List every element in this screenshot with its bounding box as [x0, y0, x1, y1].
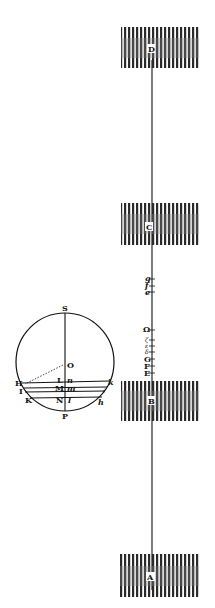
- label-I: I: [19, 386, 23, 396]
- label-M: M: [55, 383, 64, 393]
- label-k: k: [108, 377, 114, 387]
- label-e: e: [145, 287, 150, 297]
- block-A: A: [120, 554, 199, 597]
- label-h: h: [98, 397, 104, 407]
- label-B: B: [148, 396, 155, 406]
- chord-Mm: [25, 391, 105, 392]
- chord-Ln: [24, 387, 107, 388]
- label-m: m: [67, 383, 75, 393]
- block-D: D: [121, 27, 199, 68]
- label-E: E: [144, 368, 150, 378]
- label-P: P: [62, 411, 68, 421]
- circle-figure: S O P H I K L n M m N l k i h: [15, 303, 114, 421]
- lower-marks: Ω ζ ε δ G F E: [143, 324, 155, 378]
- label-omega: Ω: [143, 324, 150, 334]
- label-A: A: [146, 572, 154, 582]
- label-C: C: [146, 222, 152, 232]
- label-K: K: [25, 395, 33, 405]
- column-figure: D C B A g f e: [120, 27, 199, 597]
- label-O: O: [67, 360, 74, 370]
- diagram-canvas: S O P H I K L n M m N l k i h D C: [0, 0, 215, 608]
- upper-marks: g f e: [144, 273, 155, 297]
- label-D: D: [148, 44, 155, 54]
- label-i: i: [103, 387, 105, 394]
- label-S: S: [62, 303, 68, 313]
- label-N: N: [56, 395, 63, 405]
- chord-Ii: [30, 397, 102, 398]
- block-C: C: [121, 203, 199, 245]
- block-B: B: [121, 381, 199, 421]
- label-l: l: [68, 395, 71, 405]
